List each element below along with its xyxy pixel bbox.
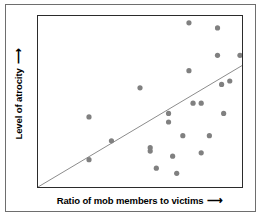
data-point (180, 133, 185, 138)
data-point (190, 101, 195, 106)
data-point (199, 101, 204, 106)
data-point (237, 53, 242, 58)
data-point (166, 119, 171, 124)
data-point (154, 166, 159, 171)
data-point (166, 111, 171, 116)
x-axis-arrow-icon: ⟶ (207, 195, 223, 206)
data-point (221, 111, 226, 116)
data-point (215, 25, 220, 30)
plot-canvas (38, 16, 242, 187)
plot-area (37, 15, 243, 188)
data-points (86, 20, 242, 176)
x-axis-label: Ratio of mob members to victims ⟶ (37, 190, 243, 210)
y-axis-arrow-icon: ⟶ (13, 48, 24, 64)
data-point (86, 114, 91, 119)
trend-line (38, 66, 242, 187)
scatter-plot-figure: Ratio of mob members to victims ⟶ Level … (0, 0, 261, 220)
data-point (207, 133, 212, 138)
data-point (186, 68, 191, 73)
data-point (170, 154, 175, 159)
data-point (227, 78, 232, 83)
data-point (137, 85, 142, 90)
data-point (109, 138, 114, 143)
data-point (199, 150, 204, 155)
trend-line-segment (38, 66, 242, 187)
data-point (186, 20, 191, 25)
data-point (215, 53, 220, 58)
y-axis-label: Level of atrocity ⟶ (10, 14, 26, 174)
data-point (148, 148, 153, 153)
x-axis-label-text: Ratio of mob members to victims (57, 195, 204, 206)
data-point (174, 171, 179, 176)
data-point (219, 82, 224, 87)
y-axis-label-text: Level of atrocity (13, 68, 24, 139)
data-point (86, 157, 91, 162)
